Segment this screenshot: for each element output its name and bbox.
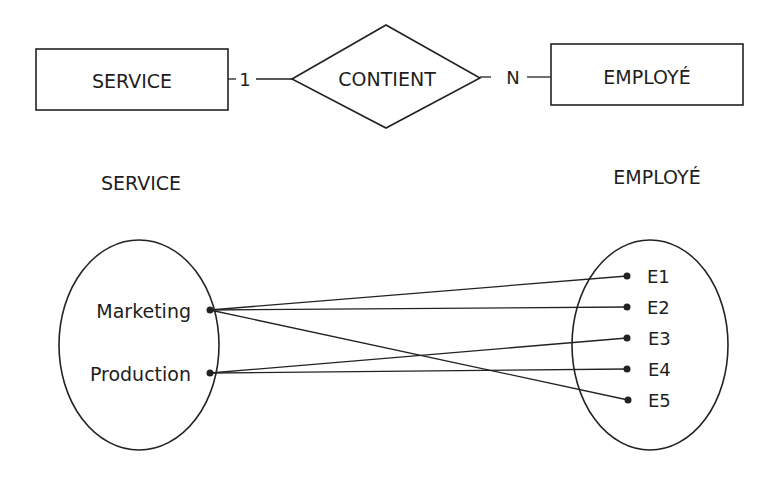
e5-dot — [625, 397, 632, 404]
relationship-contient-label: CONTIENT — [338, 68, 436, 90]
set-title-service: SERVICE — [101, 172, 181, 194]
item-e1: E1 — [647, 266, 670, 287]
item-e4: E4 — [648, 359, 671, 380]
cardinality-right: N — [506, 67, 519, 88]
link-marketing-e1 — [210, 276, 627, 310]
marketing-dot — [207, 307, 214, 314]
er-diagram: SERVICE 1 CONTIENT N EMPLOYÉ SERVICE EMP… — [0, 0, 771, 482]
e4-dot — [624, 366, 631, 373]
item-production: Production — [90, 363, 191, 385]
item-e5: E5 — [648, 390, 671, 411]
production-dot — [207, 370, 214, 377]
entity-service-label: SERVICE — [92, 70, 172, 92]
link-production-e3 — [210, 338, 627, 373]
e1-dot — [624, 273, 631, 280]
entity-employe-label: EMPLOYÉ — [603, 66, 690, 88]
service-set-ellipse — [59, 240, 219, 450]
item-marketing: Marketing — [96, 300, 191, 322]
e3-dot — [624, 335, 631, 342]
cardinality-left: 1 — [239, 69, 250, 90]
set-title-employe: EMPLOYÉ — [613, 166, 700, 188]
item-e3: E3 — [648, 328, 671, 349]
e2-dot — [624, 304, 631, 311]
item-e2: E2 — [647, 297, 670, 318]
link-marketing-e2 — [210, 307, 627, 310]
link-production-e4 — [210, 369, 627, 373]
